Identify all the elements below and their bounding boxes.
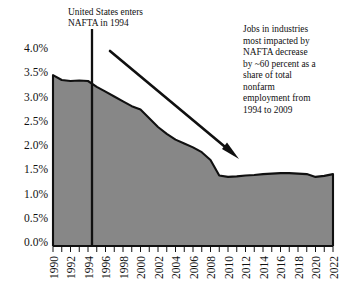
annotation-line: most impacted by bbox=[243, 36, 310, 46]
y-tick-label: 1.0% bbox=[24, 188, 48, 200]
x-tick-label: 2006 bbox=[188, 256, 200, 279]
x-tick-label: 2020 bbox=[310, 256, 322, 279]
annotation-line: by ~60 percent as a bbox=[243, 59, 317, 69]
x-tick-label: 1990 bbox=[48, 256, 60, 279]
x-tick-label: 2012 bbox=[240, 256, 252, 279]
y-tick-label: 2.5% bbox=[24, 115, 48, 127]
y-tick-label: 3.5% bbox=[24, 66, 48, 78]
annotation-line: employment from bbox=[243, 93, 311, 103]
annotation-line: Jobs in industries bbox=[243, 24, 308, 34]
y-tick-label: 3.0% bbox=[24, 91, 48, 103]
x-tick-label: 2014 bbox=[258, 256, 270, 279]
annotation-line: NAFTA in 1994 bbox=[68, 18, 129, 28]
x-tick-label: 2002 bbox=[153, 256, 165, 279]
x-tick-label: 2000 bbox=[135, 256, 147, 279]
x-axis-tick-labels: 1990 1992 1994 1996 1998 2000 2002 2004 … bbox=[48, 256, 340, 279]
chart-page: 4.0% 3.5% 3.0% 2.5% 2.0% 1.5% 1.0% 0.5% … bbox=[0, 0, 358, 300]
annotation-line: 1994 to 2009 bbox=[243, 105, 293, 115]
annotation-line: nonfarm bbox=[243, 82, 275, 92]
x-tick-label: 2022 bbox=[328, 256, 340, 279]
x-tick-label: 2018 bbox=[293, 256, 305, 279]
y-tick-label: 1.5% bbox=[24, 163, 48, 175]
x-tick-label: 2008 bbox=[205, 256, 217, 279]
x-tick-label: 2004 bbox=[170, 256, 182, 279]
y-tick-label: 0.5% bbox=[24, 212, 48, 224]
y-tick-label: 4.0% bbox=[24, 42, 48, 54]
x-tick-label: 1992 bbox=[65, 256, 77, 279]
annotation-line: share of total bbox=[243, 70, 292, 80]
x-tick-label: 1994 bbox=[83, 256, 95, 279]
x-tick-label: 2010 bbox=[223, 256, 235, 279]
x-tick-label: 2016 bbox=[275, 256, 287, 279]
x-tick-label: 1998 bbox=[118, 256, 130, 279]
x-tick-label: 1996 bbox=[100, 256, 112, 279]
y-tick-label: 2.0% bbox=[24, 139, 48, 151]
y-tick-label: 0.0% bbox=[24, 236, 48, 248]
y-axis-tick-labels: 4.0% 3.5% 3.0% 2.5% 2.0% 1.5% 1.0% 0.5% … bbox=[24, 42, 48, 248]
annotation-line: United States enters bbox=[68, 7, 143, 17]
annotation-line: NAFTA decrease bbox=[243, 47, 308, 57]
nafta-employment-area-chart: 4.0% 3.5% 3.0% 2.5% 2.0% 1.5% 1.0% 0.5% … bbox=[0, 0, 358, 300]
